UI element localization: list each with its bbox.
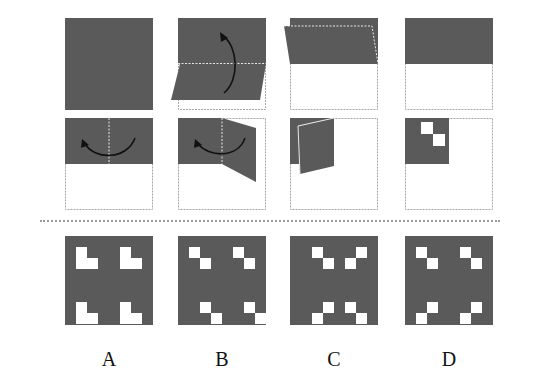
punched-hole (244, 302, 255, 313)
step-7-quarter-folding (290, 118, 378, 210)
punched-hole (87, 313, 98, 324)
punched-hole (200, 258, 211, 269)
punched-hole (356, 313, 367, 324)
punched-hole (120, 258, 131, 269)
punched-hole (323, 258, 334, 269)
punched-hole (416, 313, 427, 324)
punched-hole (211, 313, 222, 324)
option-d-figure[interactable] (405, 236, 493, 325)
step-2-fold-up (178, 18, 266, 110)
punched-hole (421, 122, 433, 134)
punched-hole (233, 247, 244, 258)
punched-hole (87, 258, 98, 269)
option-c-figure[interactable] (290, 236, 378, 325)
step-1-full-sheet (65, 18, 153, 110)
punched-hole (416, 247, 427, 258)
punched-hole (76, 302, 87, 313)
punched-hole (189, 247, 200, 258)
option-c-label[interactable]: C (290, 348, 378, 371)
punched-hole (471, 302, 482, 313)
step-3-folded-half (290, 18, 378, 110)
punched-hole (345, 302, 356, 313)
punched-hole (323, 302, 334, 313)
punched-hole (131, 258, 142, 269)
punched-hole (120, 302, 131, 313)
punched-hole (427, 302, 438, 313)
punched-hole (200, 302, 211, 313)
punched-hole (76, 258, 87, 269)
step-8-punched-quarter (405, 118, 493, 210)
punched-hole (120, 247, 131, 258)
option-b-label[interactable]: B (178, 348, 266, 371)
punched-hole (460, 313, 471, 324)
section-divider (40, 220, 500, 222)
option-a-label[interactable]: A (65, 348, 153, 371)
punched-hole (76, 247, 87, 258)
punched-hole (131, 313, 142, 324)
punched-hole (356, 247, 367, 258)
punched-hole (244, 258, 255, 269)
punched-hole (460, 247, 471, 258)
step-4-top-half (405, 18, 493, 110)
punched-hole (312, 247, 323, 258)
punched-hole (76, 313, 87, 324)
punched-hole (471, 258, 482, 269)
punched-hole (120, 313, 131, 324)
option-a-figure[interactable] (65, 236, 153, 325)
punched-hole (345, 258, 356, 269)
step-6-folding-right-over (178, 118, 266, 210)
punched-hole (255, 313, 266, 324)
punched-hole (312, 313, 323, 324)
option-d-label[interactable]: D (405, 348, 493, 371)
punched-hole (427, 258, 438, 269)
step-5-fold-left (65, 118, 153, 210)
punched-hole (433, 134, 445, 146)
option-b-figure[interactable] (178, 236, 266, 325)
